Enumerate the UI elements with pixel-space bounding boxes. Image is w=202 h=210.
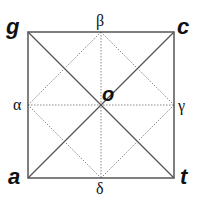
corner-label-c: c bbox=[177, 16, 189, 38]
square-diagram bbox=[0, 0, 202, 210]
midpoint-label-alpha: α bbox=[13, 97, 21, 113]
midpoint-label-beta: β bbox=[96, 13, 104, 29]
corner-label-t: t bbox=[180, 166, 187, 188]
corner-label-g: g bbox=[6, 16, 19, 38]
corner-label-a: a bbox=[8, 166, 20, 188]
midpoint-label-gamma: γ bbox=[178, 98, 185, 114]
center-label-o: o bbox=[102, 84, 114, 104]
midpoint-label-delta: δ bbox=[96, 181, 104, 197]
